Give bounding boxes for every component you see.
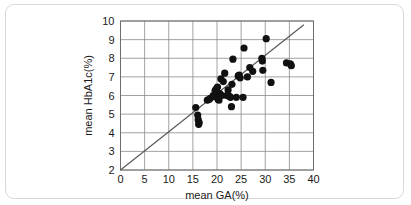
data-point [192,104,199,111]
data-point [233,94,240,101]
x-tick-label: 0 [117,173,123,185]
y-tick-label: 3 [108,145,114,157]
data-point [263,35,270,42]
x-tick-label: 30 [259,173,271,185]
data-point [267,79,274,86]
data-point [196,119,203,126]
y-tick-label: 5 [108,108,114,120]
y-axis-title: mean HbA1c(%) [82,55,94,136]
x-tick-label: 10 [163,173,175,185]
data-point [239,94,246,101]
x-tick-label: 20 [211,173,223,185]
scatter-chart: 05101520253035402345678910mean GA(%)mean… [0,0,411,205]
y-tick-label: 2 [108,164,114,176]
x-tick-label: 35 [283,173,295,185]
y-tick-label: 10 [102,15,114,27]
data-point [221,70,228,77]
x-tick-label: 25 [235,173,247,185]
y-tick-label: 9 [108,34,114,46]
data-point [220,78,227,85]
data-point [214,84,221,91]
y-tick-label: 6 [108,90,114,102]
data-point [228,103,235,110]
data-point [244,73,251,80]
data-point [229,56,236,63]
x-tick-label: 40 [307,173,319,185]
x-tick-label: 15 [187,173,199,185]
x-tick-label: 5 [142,173,148,185]
y-tick-label: 8 [108,52,114,64]
data-point [259,67,266,74]
x-axis-title: mean GA(%) [185,189,249,201]
y-tick-label: 7 [108,71,114,83]
data-point [237,74,244,81]
y-tick-label: 4 [108,127,114,139]
data-point [249,68,256,75]
data-point [240,44,247,51]
chart-svg: 05101520253035402345678910mean GA(%)mean… [0,0,411,205]
data-point [259,57,266,64]
data-point [228,81,235,88]
data-point [288,62,295,69]
